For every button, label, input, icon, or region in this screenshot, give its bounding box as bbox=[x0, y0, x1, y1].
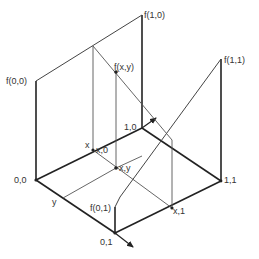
label-fxy: f(x,y) bbox=[114, 62, 134, 72]
label-p10: 1,0 bbox=[124, 122, 137, 132]
top-surface-edges bbox=[36, 15, 221, 207]
point-01 bbox=[113, 231, 116, 234]
label-p00: 0,0 bbox=[14, 175, 27, 185]
label-f01: f(0,1) bbox=[90, 203, 111, 213]
bilinear-interpolation-diagram: f(0,0) f(1,0) f(1,1) f(0,1) f(x,y) 1,0 0… bbox=[0, 0, 259, 259]
label-x: x bbox=[85, 140, 90, 150]
edge-10-11 bbox=[142, 128, 221, 181]
y-line bbox=[63, 168, 116, 198]
label-f00: f(0,0) bbox=[6, 76, 27, 86]
base-plane bbox=[36, 128, 221, 233]
label-f10: f(1,0) bbox=[144, 10, 165, 20]
y-axis-arrow-icon bbox=[115, 233, 133, 247]
label-p01: 0,1 bbox=[100, 237, 113, 247]
x-axis-arrow-icon bbox=[142, 118, 156, 128]
label-px0: x,0 bbox=[96, 145, 108, 155]
point-11 bbox=[220, 180, 223, 183]
x0-x1-line bbox=[93, 150, 172, 208]
diagram-canvas: f(0,0) f(1,0) f(1,1) f(0,1) f(x,y) 1,0 0… bbox=[0, 0, 259, 259]
label-pxy: x,y bbox=[119, 163, 131, 173]
label-px1: x,1 bbox=[173, 206, 185, 216]
edge-01-11 bbox=[115, 181, 221, 233]
label-f11: f(1,1) bbox=[224, 55, 245, 65]
point-x0 bbox=[91, 148, 94, 151]
point-00 bbox=[34, 178, 37, 181]
label-y: y bbox=[52, 197, 57, 207]
label-p11: 1,1 bbox=[224, 175, 237, 185]
point-xy bbox=[114, 166, 118, 170]
